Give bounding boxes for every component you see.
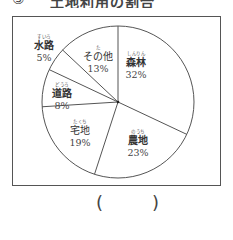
- label-residential: たくち 宅地 19%: [69, 120, 90, 147]
- label-road: どうろ 道路 8%: [52, 83, 72, 110]
- label-farmland: のうち 農地 23%: [127, 130, 148, 157]
- label-forest: しんりん 森林 32%: [125, 52, 146, 79]
- label-other: た その他 13%: [83, 46, 113, 73]
- answer-blank[interactable]: ( ): [0, 192, 233, 216]
- pie-center: [117, 101, 120, 104]
- close-paren: ): [152, 192, 159, 213]
- label-waterway: すいろ 水路 5%: [34, 35, 54, 62]
- open-paren: (: [96, 192, 103, 213]
